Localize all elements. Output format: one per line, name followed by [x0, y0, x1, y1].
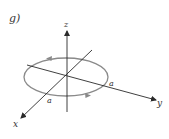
z-axis-label: z — [63, 20, 69, 29]
y-axis-label: y — [156, 98, 163, 108]
y-axis — [27, 65, 156, 100]
radius-label-y: a — [109, 79, 114, 88]
radius-label-x: a — [47, 96, 52, 105]
x-axis-label: x — [13, 119, 18, 129]
panel-label: g) — [9, 12, 20, 25]
current-loop-diagram: g) z y x a a — [0, 0, 169, 139]
x-axis — [21, 50, 92, 118]
current-loop — [24, 58, 108, 96]
